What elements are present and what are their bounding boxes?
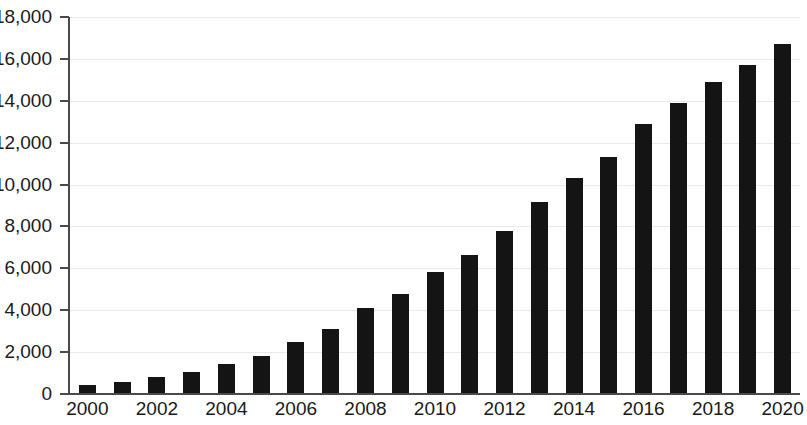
y-axis-tick-mark bbox=[60, 16, 69, 18]
plot-area bbox=[70, 17, 800, 394]
y-axis-tick-mark bbox=[60, 309, 69, 311]
x-axis-tick-label: 2014 bbox=[553, 398, 595, 420]
y-axis-tick-label: 6,000 bbox=[4, 257, 52, 279]
y-axis-tick-mark bbox=[60, 184, 69, 186]
x-axis-tick-label: 2006 bbox=[275, 398, 317, 420]
y-axis-tick-mark bbox=[60, 351, 69, 353]
bar bbox=[531, 202, 548, 394]
bar-chart: 02,0004,0006,0008,00010,00012,00014,0001… bbox=[0, 0, 807, 425]
bars-group bbox=[70, 17, 800, 394]
bar bbox=[705, 82, 722, 394]
x-axis-tick-label: 2008 bbox=[344, 398, 386, 420]
x-axis-tick-label: 2010 bbox=[414, 398, 456, 420]
y-axis-tick-mark bbox=[60, 393, 69, 395]
y-axis-tick-mark bbox=[60, 225, 69, 227]
y-axis-tick-label: 8,000 bbox=[4, 215, 52, 237]
y-axis-tick-label: 16,000 bbox=[0, 48, 52, 70]
y-axis: 02,0004,0006,0008,00010,00012,00014,0001… bbox=[0, 0, 62, 425]
bar bbox=[183, 372, 200, 394]
y-axis-tick-label: 2,000 bbox=[4, 341, 52, 363]
x-axis-tick-label: 2004 bbox=[205, 398, 247, 420]
bar bbox=[566, 178, 583, 394]
y-axis-tick-label: 4,000 bbox=[4, 299, 52, 321]
y-axis-tick-label: 0 bbox=[41, 383, 52, 405]
y-axis-tick-mark bbox=[60, 267, 69, 269]
bar bbox=[461, 255, 478, 394]
bar bbox=[774, 44, 791, 394]
y-axis-tick-label: 10,000 bbox=[0, 174, 52, 196]
bar bbox=[253, 356, 270, 394]
bar bbox=[600, 157, 617, 394]
bar bbox=[670, 103, 687, 394]
bar bbox=[392, 294, 409, 394]
bar bbox=[739, 65, 756, 394]
bar bbox=[218, 364, 235, 394]
y-axis-tick-label: 18,000 bbox=[0, 6, 52, 28]
bar bbox=[427, 272, 444, 394]
bar bbox=[496, 231, 513, 394]
y-axis-tick-mark bbox=[60, 58, 69, 60]
y-axis-tick-mark bbox=[60, 100, 69, 102]
bar bbox=[287, 342, 304, 394]
x-axis-tick-label: 2012 bbox=[483, 398, 525, 420]
y-axis-tick-label: 12,000 bbox=[0, 132, 52, 154]
bar bbox=[635, 124, 652, 394]
y-axis-tick-label: 14,000 bbox=[0, 90, 52, 112]
x-axis-tick-label: 2000 bbox=[66, 398, 108, 420]
bar bbox=[148, 377, 165, 394]
x-axis-tick-label: 2018 bbox=[692, 398, 734, 420]
y-axis-tick-mark bbox=[60, 142, 69, 144]
bar bbox=[322, 329, 339, 394]
x-axis-line bbox=[68, 393, 800, 395]
x-axis: 2000200220042006200820102012201420162018… bbox=[70, 396, 800, 425]
x-axis-tick-label: 2002 bbox=[136, 398, 178, 420]
x-axis-tick-label: 2020 bbox=[761, 398, 803, 420]
x-axis-tick-label: 2016 bbox=[622, 398, 664, 420]
bar bbox=[357, 308, 374, 395]
